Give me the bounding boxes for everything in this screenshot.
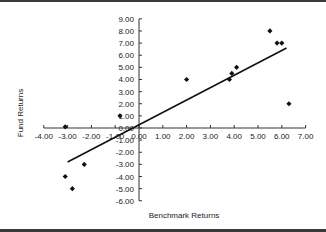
data-point-marker bbox=[274, 40, 279, 45]
y-tick-label: -6.00 bbox=[116, 197, 135, 206]
y-tick-label: -3.00 bbox=[116, 160, 135, 169]
y-tick-label: 2.00 bbox=[118, 100, 134, 109]
x-tick-label: -3.00 bbox=[58, 132, 77, 141]
y-tick-label: -4.00 bbox=[116, 173, 135, 182]
y-tick-label: 7.00 bbox=[118, 39, 134, 48]
chart-frame: -4.00-3.00-2.00-1.000.001.002.003.004.00… bbox=[0, 0, 326, 232]
data-point-marker bbox=[279, 40, 284, 45]
data-point-marker bbox=[286, 101, 291, 106]
x-tick-label: 2.00 bbox=[179, 132, 195, 141]
y-tick-label: -1.00 bbox=[116, 136, 135, 145]
data-point-marker bbox=[184, 77, 189, 82]
data-point-marker bbox=[234, 65, 239, 70]
y-tick-label: 3.00 bbox=[118, 88, 134, 97]
y-tick-label: 5.00 bbox=[118, 63, 134, 72]
y-tick-label: -5.00 bbox=[116, 185, 135, 194]
data-point-marker bbox=[63, 174, 68, 179]
trendline bbox=[68, 48, 287, 162]
data-point-marker bbox=[82, 162, 87, 167]
y-tick-label: 4.00 bbox=[118, 75, 134, 84]
y-axis-title: Fund Returns bbox=[16, 89, 25, 137]
x-tick-label: 5.00 bbox=[250, 132, 266, 141]
data-point-marker bbox=[227, 77, 232, 82]
scatter-chart: -4.00-3.00-2.00-1.000.001.002.003.004.00… bbox=[0, 0, 326, 232]
x-tick-label: 4.00 bbox=[226, 132, 242, 141]
y-tick-label: -2.00 bbox=[116, 148, 135, 157]
x-axis-title: Benchmark Returns bbox=[149, 211, 220, 220]
x-tick-label: 3.00 bbox=[203, 132, 219, 141]
x-tick-label: 1.00 bbox=[155, 132, 171, 141]
y-tick-label: 8.00 bbox=[118, 27, 134, 36]
y-tick-label: 6.00 bbox=[118, 51, 134, 60]
y-tick-label: 9.00 bbox=[118, 15, 134, 24]
data-point-marker bbox=[63, 124, 68, 129]
data-point-marker bbox=[70, 186, 75, 191]
data-point-marker bbox=[267, 28, 272, 33]
x-tick-label: 7.00 bbox=[298, 132, 314, 141]
x-tick-label: 6.00 bbox=[274, 132, 290, 141]
x-tick-label: -2.00 bbox=[82, 132, 101, 141]
x-tick-label: -4.00 bbox=[35, 132, 54, 141]
